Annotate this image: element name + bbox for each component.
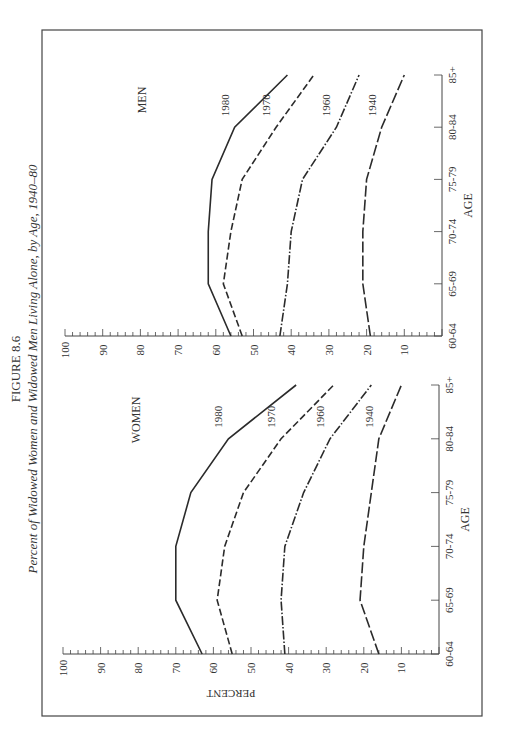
percent-tick-label: 90 [95, 662, 107, 674]
figure-frame [42, 30, 482, 716]
percent-tick-label: 10 [395, 662, 407, 674]
figure-heading: FIGURE 8.6 Percent of Widowed Women and … [8, 164, 40, 575]
age-tick-label: 65-69 [446, 270, 458, 296]
panel-title: MEN [135, 86, 149, 113]
series-label: 1960 [314, 405, 326, 428]
series-line-1980 [176, 385, 296, 654]
percent-tick-label: 70 [170, 662, 182, 674]
age-tick-label: 65-69 [443, 587, 455, 613]
figure-title: Percent of Widowed Women and Widowed Men… [25, 164, 40, 575]
series-label: 1980 [219, 94, 231, 117]
percent-tick-label: 50 [248, 344, 260, 356]
age-tick-label: 85+ [446, 66, 458, 83]
percent-tick-label: 100 [59, 341, 71, 358]
age-tick-label: 75-79 [443, 479, 455, 505]
percent-tick-label: 80 [134, 344, 146, 356]
age-tick-label: 85+ [443, 376, 455, 393]
percent-tick-label: 50 [245, 662, 257, 674]
age-tick-label: 70-74 [446, 218, 458, 244]
percent-tick-label: 100 [57, 659, 69, 676]
percent-tick-label: 30 [323, 344, 335, 356]
figure-page: FIGURE 8.6 Percent of Widowed Women and … [0, 0, 512, 739]
panel-men: 10203040506070809010060-6465-6970-7475-7… [59, 66, 475, 358]
series-label: 1980 [212, 405, 224, 428]
percent-tick-label: 10 [398, 344, 410, 356]
age-tick-label: 80-84 [443, 425, 455, 451]
age-axis-title: AGE [458, 507, 472, 532]
series-label: 1940 [366, 94, 378, 117]
panels: 10203040506070809010060-6465-6970-7475-7… [57, 66, 475, 700]
series-label: 1970 [260, 94, 272, 117]
age-tick-label: 60-64 [443, 641, 455, 667]
percent-axis-title: PERCENT [206, 688, 255, 700]
percent-tick-label: 90 [97, 344, 109, 356]
percent-tick-label: 80 [132, 662, 144, 674]
age-tick-label: 80-84 [446, 114, 458, 140]
age-tick-label: 60-64 [446, 323, 458, 349]
age-tick-label: 75-79 [446, 166, 458, 192]
age-tick-label: 70-74 [443, 533, 455, 559]
percent-tick-label: 30 [320, 662, 332, 674]
panel-title: WOMEN [129, 396, 143, 443]
percent-tick-label: 40 [283, 662, 295, 674]
percent-tick-label: 70 [172, 344, 184, 356]
panel-women: 10203040506070809010060-6465-6970-7475-7… [57, 376, 472, 700]
figure-label: FIGURE 8.6 [8, 335, 23, 402]
percent-tick-label: 40 [285, 344, 297, 356]
series-label: 1940 [363, 405, 375, 428]
percent-tick-label: 60 [207, 662, 219, 674]
series-label: 1960 [320, 94, 332, 117]
percent-tick-label: 20 [361, 344, 373, 356]
percent-tick-label: 20 [358, 662, 370, 674]
age-axis-title: AGE [461, 193, 475, 218]
percent-tick-label: 60 [210, 344, 222, 356]
figure-svg: FIGURE 8.6 Percent of Widowed Women and … [0, 0, 512, 739]
series-label: 1970 [265, 405, 277, 428]
